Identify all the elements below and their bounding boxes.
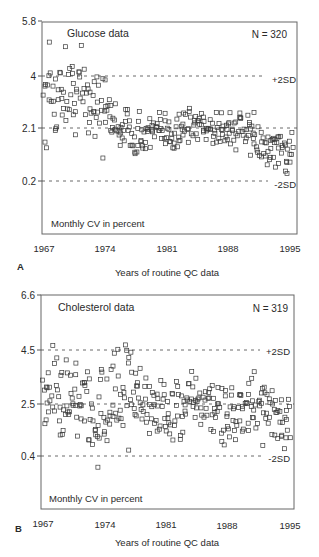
data-point (270, 389, 274, 393)
data-point (52, 112, 56, 116)
y-tick-label: 0.4 (21, 451, 35, 462)
data-point (261, 136, 265, 140)
data-point (121, 424, 125, 428)
data-point (81, 91, 85, 95)
data-point (159, 379, 163, 383)
data-point (97, 83, 101, 87)
data-point (129, 350, 133, 354)
data-point (174, 379, 178, 383)
data-point (57, 395, 61, 399)
data-point (247, 393, 251, 397)
data-point (253, 133, 257, 137)
data-point (252, 370, 256, 374)
data-point (284, 436, 288, 440)
data-point (74, 361, 78, 365)
n-annotation: N = 320 (252, 29, 288, 40)
data-point (266, 149, 270, 153)
data-point (268, 158, 272, 162)
data-point (45, 146, 49, 150)
data-point (85, 390, 89, 394)
data-point (223, 139, 227, 143)
data-point (269, 155, 273, 159)
data-point (230, 386, 234, 390)
data-point (290, 131, 294, 135)
data-point (217, 121, 221, 125)
data-point (87, 377, 91, 381)
data-point (61, 106, 65, 110)
data-point (55, 388, 59, 392)
x-axis-label: Years of routine QC data (115, 267, 220, 278)
data-point (75, 415, 79, 419)
data-point (74, 133, 78, 137)
y-axis-label: Monthly CV in percent (49, 493, 143, 504)
data-point (147, 432, 151, 436)
x-tick-label: 1995 (279, 520, 300, 531)
data-point (163, 119, 167, 123)
data-point (282, 447, 286, 451)
data-point (77, 394, 81, 398)
y-tick-label: 4 (30, 71, 36, 82)
data-point (155, 404, 159, 408)
data-point (158, 117, 162, 121)
data-point (229, 393, 233, 397)
data-point (96, 110, 100, 114)
data-point (57, 419, 61, 423)
data-point (137, 109, 141, 113)
x-tick-label: 1981 (155, 519, 176, 530)
data-point (52, 409, 56, 413)
chart-title: Cholesterol data (58, 301, 135, 313)
data-point (50, 394, 54, 398)
data-point (285, 428, 289, 432)
data-point (223, 394, 227, 398)
chart-glucose: 5.8 4 2.1 0.2 Glucose data N = 320 +2SD … (17, 16, 301, 278)
y-axis-label: Monthly CV in percent (51, 218, 145, 229)
data-point (91, 419, 95, 423)
data-point (136, 144, 140, 148)
x-tick-label: 1995 (279, 243, 300, 254)
data-point (285, 147, 289, 151)
data-point (44, 418, 48, 422)
data-points-b (40, 343, 292, 469)
data-point (145, 413, 149, 417)
data-point (93, 134, 97, 138)
data-point (65, 99, 69, 103)
data-point (249, 153, 253, 157)
data-point (179, 394, 183, 398)
data-point (153, 421, 157, 425)
data-point (225, 137, 229, 141)
data-point (55, 356, 59, 360)
data-point (143, 385, 147, 389)
data-point (98, 121, 102, 125)
data-point (99, 99, 103, 103)
data-point (199, 406, 203, 410)
data-point (116, 347, 120, 351)
data-point (241, 407, 245, 411)
data-point (259, 130, 263, 134)
plus2sd-label: +2SD (266, 346, 290, 357)
panel-letter: B (15, 523, 22, 534)
data-point (116, 374, 120, 378)
data-point (175, 117, 179, 121)
data-point (52, 99, 56, 103)
data-point (150, 391, 154, 395)
data-point (95, 75, 99, 79)
data-point (79, 44, 83, 48)
data-point (166, 412, 170, 416)
x-tick-label: 1974 (94, 519, 115, 530)
data-point (82, 67, 86, 71)
data-point (94, 115, 98, 119)
plot-frame-b (41, 295, 294, 509)
data-point (99, 412, 103, 416)
data-point (96, 465, 100, 469)
data-point (113, 387, 117, 391)
data-point (247, 429, 251, 433)
y-tick-label: 4.5 (21, 345, 35, 356)
data-point (70, 396, 74, 400)
data-point (171, 438, 175, 442)
data-point (88, 418, 92, 422)
data-point (280, 398, 284, 402)
data-point (178, 437, 182, 441)
data-point (43, 140, 47, 144)
data-point (175, 414, 179, 418)
data-point (65, 404, 69, 408)
